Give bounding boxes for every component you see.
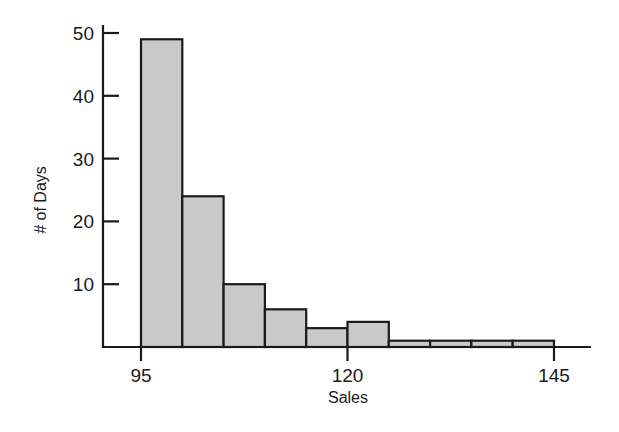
histogram-svg: 1020304050 95120145 Sales # of Days — [0, 0, 619, 432]
histogram-bar — [141, 39, 182, 347]
y-tick-label: 50 — [73, 23, 94, 44]
histogram-figure: 1020304050 95120145 Sales # of Days — [0, 0, 619, 432]
x-tick-label: 95 — [130, 365, 151, 386]
y-tick-marks-group — [103, 33, 119, 284]
histogram-bar — [348, 322, 389, 347]
y-tick-label: 40 — [73, 86, 94, 107]
x-tick-marks-group — [141, 347, 554, 361]
y-tick-label: 10 — [73, 274, 94, 295]
histogram-bar — [224, 284, 265, 347]
y-tick-labels-group: 1020304050 — [73, 23, 94, 295]
y-axis-title: # of Days — [32, 166, 49, 234]
x-tick-labels-group: 95120145 — [130, 365, 569, 386]
x-axis-title: Sales — [328, 389, 368, 406]
histogram-bar — [306, 328, 347, 347]
x-tick-label: 120 — [332, 365, 364, 386]
histogram-bar — [182, 196, 223, 347]
histogram-bar — [265, 309, 306, 347]
y-tick-label: 30 — [73, 149, 94, 170]
bars-group — [141, 39, 554, 347]
y-tick-label: 20 — [73, 211, 94, 232]
x-tick-label: 145 — [538, 365, 570, 386]
